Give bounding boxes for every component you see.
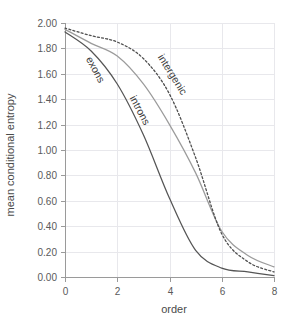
y-tick-label: 1.20 [38,120,58,131]
x-tick-label: 2 [115,286,121,297]
x-tick-label: 4 [168,286,174,297]
x-axis-title: order [161,303,187,315]
y-tick-label: 1.40 [38,94,58,105]
x-tick-label: 8 [272,286,278,297]
y-tick-label: 2.00 [38,18,58,29]
y-tick-label: 0.40 [38,221,58,232]
y-tick-label: 1.80 [38,43,58,54]
x-tick-label: 0 [63,286,69,297]
conditional-entropy-line-chart: 0.000.200.400.600.801.001.201.401.601.80… [0,0,297,320]
y-tick-label: 0.20 [38,247,58,258]
y-tick-label: 0.00 [38,272,58,283]
y-axis-title: mean conditional entropy [4,93,16,216]
y-tick-label: 0.60 [38,196,58,207]
y-tick-label: 1.60 [38,69,58,80]
chart-figure: 0.000.200.400.600.801.001.201.401.601.80… [0,0,297,320]
y-tick-label: 0.80 [38,170,58,181]
y-tick-label: 1.00 [38,145,58,156]
x-tick-label: 6 [220,286,226,297]
